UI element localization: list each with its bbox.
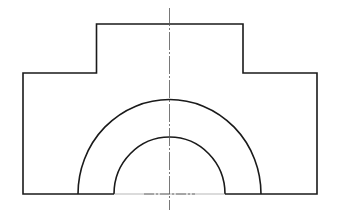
technical-drawing (0, 0, 339, 215)
